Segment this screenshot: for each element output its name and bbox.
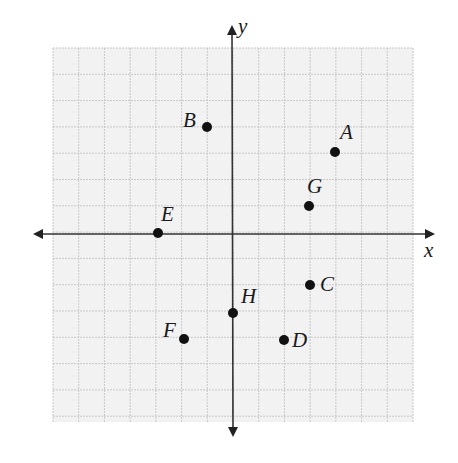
point-h-label: H bbox=[240, 284, 258, 308]
coordinate-plane: x y A B C D E F G H bbox=[0, 0, 458, 463]
point-e bbox=[153, 228, 163, 238]
point-g-label: G bbox=[307, 174, 322, 198]
point-h bbox=[228, 308, 238, 318]
point-a bbox=[330, 147, 340, 157]
arrow-left-icon bbox=[33, 229, 43, 239]
point-b bbox=[202, 122, 212, 132]
point-d-label: D bbox=[291, 328, 307, 352]
point-c-label: C bbox=[320, 272, 335, 296]
point-g bbox=[304, 201, 314, 211]
point-b-label: B bbox=[183, 108, 196, 132]
point-e-label: E bbox=[160, 202, 174, 226]
y-axis-label: y bbox=[236, 14, 248, 38]
point-a-label: A bbox=[338, 120, 353, 144]
point-f bbox=[179, 334, 189, 344]
x-axis-label: x bbox=[423, 238, 434, 262]
point-f-label: F bbox=[162, 318, 176, 342]
point-d bbox=[279, 335, 289, 345]
point-c bbox=[305, 280, 315, 290]
arrow-down-icon bbox=[228, 427, 238, 437]
arrow-up-icon bbox=[227, 25, 237, 35]
